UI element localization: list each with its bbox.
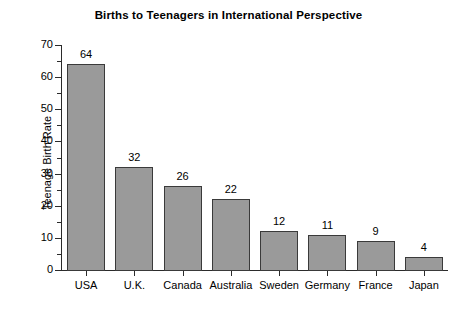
y-tick-minor bbox=[57, 125, 61, 126]
bar-france[interactable] bbox=[357, 241, 395, 271]
y-tick-label: 40 bbox=[5, 135, 53, 146]
y-tick-minor bbox=[57, 190, 61, 191]
bar-australia[interactable] bbox=[212, 199, 250, 271]
x-tick bbox=[424, 271, 425, 276]
y-tick-minor bbox=[57, 222, 61, 223]
x-tick bbox=[183, 271, 184, 276]
x-tick bbox=[376, 271, 377, 276]
y-axis-line bbox=[61, 45, 62, 271]
x-tick bbox=[279, 271, 280, 276]
y-tick-minor bbox=[57, 254, 61, 255]
bar-sweden[interactable] bbox=[260, 231, 298, 271]
bar-uk[interactable] bbox=[115, 167, 153, 271]
y-tick-label: 50 bbox=[5, 103, 53, 114]
y-tick-major bbox=[55, 141, 61, 142]
x-tick bbox=[134, 271, 135, 276]
y-tick-major bbox=[55, 45, 61, 46]
y-tick-major bbox=[55, 206, 61, 207]
y-tick-label: 30 bbox=[5, 168, 53, 179]
y-tick-label: 20 bbox=[5, 200, 53, 211]
x-tick bbox=[327, 271, 328, 276]
bar-value-label: 32 bbox=[104, 152, 164, 163]
y-tick-major bbox=[55, 109, 61, 110]
x-tick bbox=[231, 271, 232, 276]
y-tick-label: 10 bbox=[5, 232, 53, 243]
bar-value-label: 4 bbox=[394, 242, 454, 253]
bar-germany[interactable] bbox=[308, 235, 346, 271]
y-tick-minor bbox=[57, 61, 61, 62]
bar-japan[interactable] bbox=[405, 257, 443, 271]
bar-usa[interactable] bbox=[67, 64, 105, 271]
bar-canada[interactable] bbox=[164, 186, 202, 271]
bar-value-label: 9 bbox=[346, 226, 406, 237]
y-tick-label: 60 bbox=[5, 71, 53, 82]
y-tick-minor bbox=[57, 158, 61, 159]
bar-chart: Births to Teenagers in International Per… bbox=[0, 0, 457, 313]
y-axis-tick-labels: 010203040506070 bbox=[0, 0, 53, 313]
y-tick-label: 70 bbox=[5, 39, 53, 50]
y-tick-major bbox=[55, 174, 61, 175]
x-category-label: Japan bbox=[384, 279, 457, 291]
y-tick-minor bbox=[57, 93, 61, 94]
y-tick-major bbox=[55, 77, 61, 78]
bar-value-label: 26 bbox=[153, 171, 213, 182]
y-tick-major bbox=[55, 270, 61, 271]
bar-value-label: 64 bbox=[56, 49, 116, 60]
y-tick-label: 0 bbox=[5, 264, 53, 275]
x-tick bbox=[86, 271, 87, 276]
y-tick-major bbox=[55, 238, 61, 239]
bar-value-label: 22 bbox=[201, 184, 261, 195]
chart-title: Births to Teenagers in International Per… bbox=[0, 9, 457, 21]
